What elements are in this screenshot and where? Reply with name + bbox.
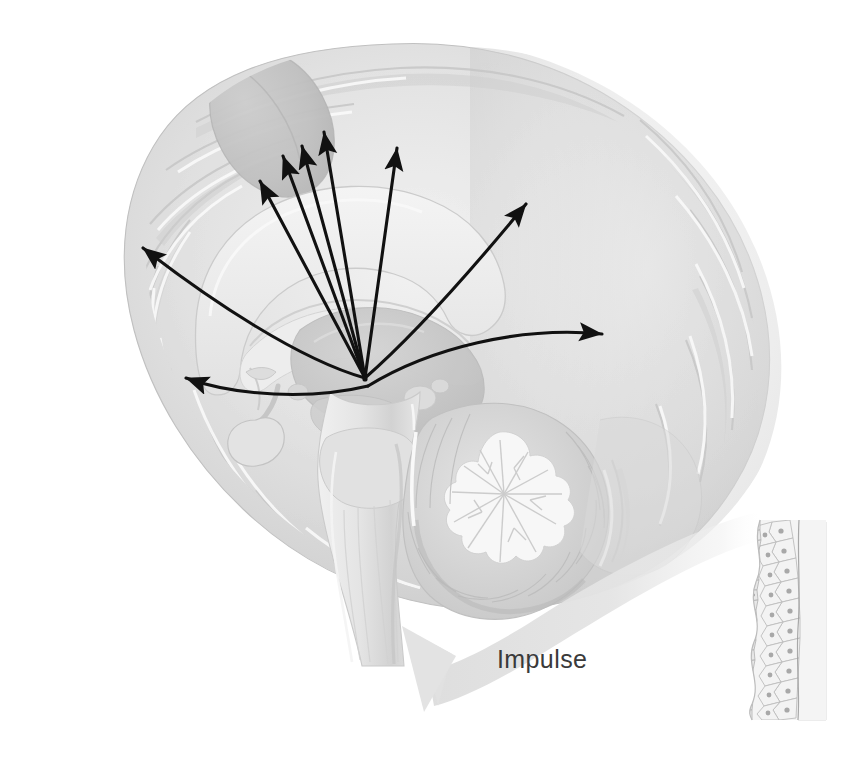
arrow-origin-point [362,376,367,381]
anatomy-illustration-svg [0,0,862,762]
pineal-gland [431,379,449,393]
mammillary-body [288,384,308,400]
illustration-canvas: Impulse [0,0,862,762]
impulse-label: Impulse [497,645,587,674]
